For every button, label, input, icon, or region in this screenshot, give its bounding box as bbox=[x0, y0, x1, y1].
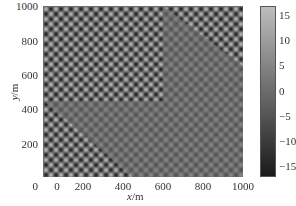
heatmap-figure: 1000 800 600 400 200 0 0 200 400 600 800… bbox=[0, 0, 296, 206]
xtick-label: 1000 bbox=[223, 181, 263, 192]
y-axis-label: y/m bbox=[8, 80, 20, 104]
x-axis-label: x/m bbox=[127, 190, 144, 202]
colorbar-tick-label: −10 bbox=[279, 136, 296, 147]
colorbar-tick-label: −15 bbox=[279, 161, 296, 172]
colorbar bbox=[260, 6, 276, 177]
ytick-label: 200 bbox=[4, 139, 38, 150]
xtick-label: 600 bbox=[143, 181, 183, 192]
colorbar-tick-label: 0 bbox=[279, 86, 285, 97]
heatmap-canvas bbox=[43, 6, 243, 177]
xtick-label: 800 bbox=[183, 181, 223, 192]
ytick-label: 800 bbox=[4, 36, 38, 47]
colorbar-tick-label: 10 bbox=[279, 35, 290, 46]
plot-area bbox=[43, 6, 243, 177]
colorbar-tick-label: 15 bbox=[279, 10, 290, 21]
xtick-label: 200 bbox=[63, 181, 103, 192]
colorbar-tick-label: −5 bbox=[279, 111, 291, 122]
colorbar-tick-label: 5 bbox=[279, 60, 285, 71]
ytick-label: 1000 bbox=[4, 1, 38, 12]
ytick-label: 400 bbox=[4, 104, 38, 115]
